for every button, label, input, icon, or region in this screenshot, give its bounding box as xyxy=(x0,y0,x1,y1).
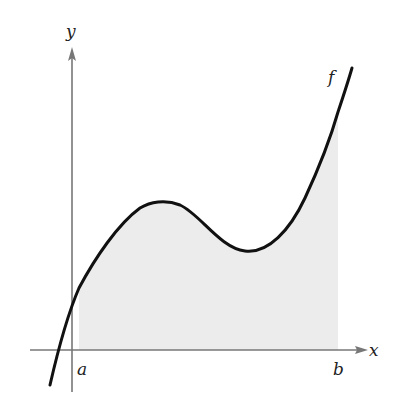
interval-end-label: b xyxy=(333,359,344,379)
area-under-curve-diagram: y x f a b xyxy=(0,0,406,413)
y-axis-label: y xyxy=(65,21,76,41)
interval-start-label: a xyxy=(77,359,87,379)
function-label: f xyxy=(326,67,337,87)
x-axis-label: x xyxy=(369,340,379,360)
